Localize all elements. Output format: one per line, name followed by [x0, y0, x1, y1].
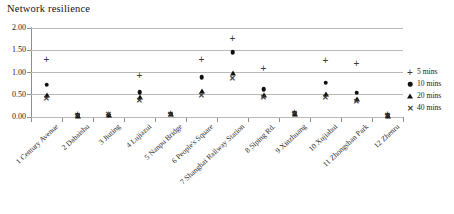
x-tick-mark [155, 118, 156, 122]
x-axis-label: 4 Lujiazui [124, 122, 153, 150]
data-point-cross: ✕ [384, 112, 391, 120]
y-tick-label: 1.00 [0, 68, 26, 77]
x-tick-mark [341, 118, 342, 122]
circle-marker-icon [408, 82, 413, 87]
x-tick-mark [217, 118, 218, 122]
triangle-marker-icon [407, 94, 413, 99]
legend-item[interactable]: +5 mins [410, 66, 454, 78]
data-point-plus: + [44, 55, 50, 65]
data-point-cross: ✕ [260, 95, 267, 103]
x-axis-label: 1 Century Avenue [13, 122, 59, 166]
data-point-plus: + [230, 34, 236, 44]
x-tick-mark [31, 118, 32, 122]
x-tick-mark [248, 118, 249, 122]
x-tick-mark [279, 118, 280, 122]
chart-legend: +5 mins10 mins20 mins✕40 mins [410, 66, 454, 114]
x-axis-label: 2 Dabaishu [59, 122, 90, 152]
x-tick-mark [124, 118, 125, 122]
legend-label: 20 mins [417, 91, 441, 100]
x-tick-mark [403, 118, 404, 122]
legend-item[interactable]: ✕40 mins [410, 102, 454, 114]
legend-label: 5 mins [417, 67, 437, 76]
y-tick-label: 0.00 [0, 112, 26, 121]
data-point-circle [137, 90, 142, 95]
plus-marker-icon: + [407, 67, 413, 78]
x-axis-label: 8 Siping Rd. [243, 122, 277, 155]
data-point-circle [261, 87, 266, 92]
legend-item[interactable]: 10 mins [410, 78, 454, 90]
data-point-cross: ✕ [167, 111, 174, 119]
data-point-circle [323, 80, 328, 85]
x-axis-label: 9 Xinzhuang [273, 122, 308, 155]
data-point-plus: + [354, 59, 360, 69]
data-point-cross: ✕ [136, 97, 143, 105]
data-point-circle [230, 50, 235, 55]
y-tick-label: 0.50 [0, 90, 26, 99]
chart-title: Network resilience [7, 3, 90, 14]
data-point-cross: ✕ [322, 94, 329, 102]
x-tick-mark [62, 118, 63, 122]
x-tick-mark [310, 118, 311, 122]
legend-label: 40 mins [417, 103, 441, 112]
data-point-cross: ✕ [198, 92, 205, 100]
data-point-cross: ✕ [74, 112, 81, 120]
data-point-plus: + [323, 56, 329, 66]
data-point-plus: + [137, 71, 143, 81]
cross-marker-icon: ✕ [407, 104, 414, 113]
data-point-circle [199, 75, 204, 80]
data-point-cross: ✕ [229, 75, 236, 83]
data-point-cross: ✕ [105, 111, 112, 119]
legend-label: 10 mins [417, 79, 441, 88]
y-tick-label: 1.50 [0, 45, 26, 54]
legend-item[interactable]: 20 mins [410, 90, 454, 102]
data-point-circle [44, 82, 49, 87]
x-tick-mark [93, 118, 94, 122]
x-axis-label: 3 Jiuting [96, 122, 121, 147]
data-point-plus: + [261, 64, 267, 74]
data-point-circle [354, 90, 359, 95]
y-tick-label: 2.00 [0, 23, 26, 32]
x-tick-mark [186, 118, 187, 122]
data-point-cross: ✕ [43, 95, 50, 103]
plot-area [31, 28, 403, 117]
x-axis-label: 12 Zhenru [372, 122, 401, 150]
data-point-cross: ✕ [291, 111, 298, 119]
data-point-plus: + [199, 55, 205, 65]
x-tick-mark [372, 118, 373, 122]
network-resilience-chart: Network resilience 0.000.501.001.502.00 … [0, 0, 454, 214]
data-point-cross: ✕ [353, 99, 360, 107]
